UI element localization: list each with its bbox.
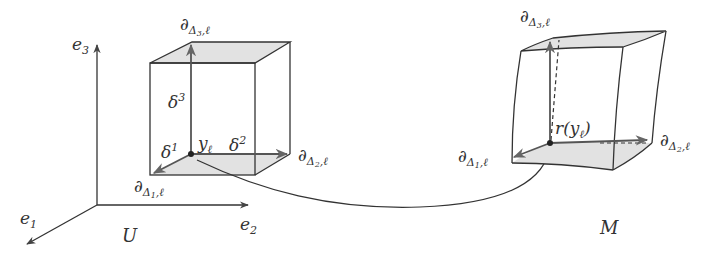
label-delta3: δ3: [168, 91, 185, 112]
box-top-face: [521, 31, 666, 51]
point-r-y-ell: [547, 140, 553, 146]
label-d1-left: ∂Δ1,ℓ: [134, 176, 164, 200]
coordinate-axes: [27, 45, 248, 244]
axis-label-e2: e2: [240, 214, 257, 237]
label-d3-left: ∂Δ3,ℓ: [180, 14, 210, 38]
label-r-y-ell: r(yℓ): [555, 118, 591, 141]
space-label-U: U: [122, 225, 138, 246]
label-d1-right: ∂Δ1,ℓ: [458, 146, 488, 170]
label-delta2: δ2: [229, 134, 246, 155]
label-y-ell: yℓ: [197, 133, 213, 156]
axis-label-e3: e3: [72, 34, 89, 57]
label-d3-right: ∂Δ3,ℓ: [520, 6, 550, 30]
label-d2-left: ∂Δ2,ℓ: [298, 145, 328, 169]
diagram-canvas: e3 e2 e1 U ∂Δ3,ℓ δ3 yℓ δ2 δ1 ∂Δ2,ℓ ∂Δ1,ℓ: [0, 0, 725, 254]
label-d2-right: ∂Δ2,ℓ: [660, 130, 690, 154]
point-y-ell: [188, 151, 194, 157]
box-bottom-face: [512, 142, 652, 170]
axis-label-e1: e1: [20, 208, 37, 231]
space-label-M: M: [599, 217, 619, 238]
label-delta1: δ1: [161, 141, 178, 162]
cube-top-face: [150, 42, 290, 63]
axis-e1: [27, 205, 97, 244]
right-curved-box: [512, 31, 666, 170]
